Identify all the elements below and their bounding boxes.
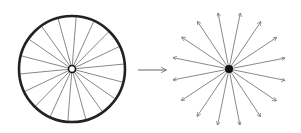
spoke [68, 72, 72, 120]
spoke [25, 71, 69, 92]
spoke [75, 64, 123, 69]
radial-arrows-icon [173, 13, 285, 125]
spoke [35, 71, 69, 106]
spoke [50, 72, 70, 116]
center-dot [225, 65, 233, 73]
spoke [72, 17, 76, 65]
bicycle-wheel-icon [19, 16, 125, 122]
spoke [75, 47, 119, 68]
spoke [74, 32, 108, 67]
spoke [20, 69, 68, 74]
wheel-to-radial-diagram [0, 0, 301, 133]
hub [69, 66, 76, 73]
spoke [73, 22, 93, 66]
